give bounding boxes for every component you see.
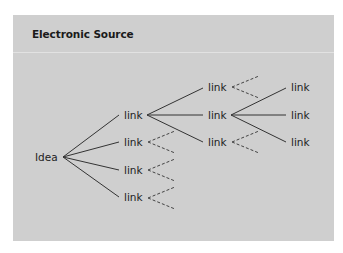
node-level2-2: link bbox=[208, 109, 227, 121]
link-tree-diagram: Idea link link link link link link link … bbox=[0, 0, 343, 253]
node-idea: Idea bbox=[35, 151, 58, 163]
node-level3-1: link bbox=[291, 81, 310, 93]
root-edges bbox=[63, 115, 119, 197]
level2-edges bbox=[231, 88, 286, 142]
node-level2-1: link bbox=[208, 81, 227, 93]
node-level1-2: link bbox=[124, 136, 143, 148]
node-level3-2: link bbox=[291, 109, 310, 121]
node-level1-4: link bbox=[124, 191, 143, 203]
node-level1-1: link bbox=[124, 109, 143, 121]
node-level3-3: link bbox=[291, 136, 310, 148]
node-level1-3: link bbox=[124, 164, 143, 176]
unexplored-links bbox=[148, 76, 259, 209]
node-level2-3: link bbox=[208, 136, 227, 148]
level1-edges bbox=[147, 88, 203, 142]
